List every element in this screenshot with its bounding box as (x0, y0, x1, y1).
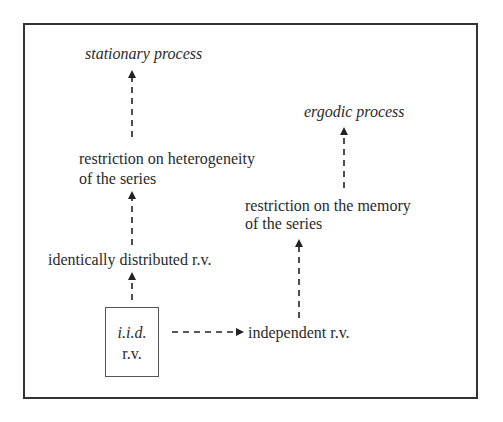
node-restriction-memory-line1: restriction on the memory (245, 197, 411, 215)
node-independent: independent r.v. (248, 324, 350, 342)
node-identically-distributed: identically distributed r.v. (48, 251, 211, 269)
node-ergodic-process: ergodic process (304, 103, 405, 121)
node-iid-rv-label: r.v. (106, 345, 158, 363)
node-iid-label: i.i.d. (106, 324, 158, 342)
node-restriction-memory-line2: of the series (245, 215, 322, 233)
node-restriction-heterogeneity-line1: restriction on heterogeneity (79, 150, 255, 168)
node-restriction-heterogeneity-line2: of the series (79, 170, 156, 188)
node-stationary-process: stationary process (85, 45, 202, 63)
node-iid-box: i.i.d. r.v. (105, 307, 159, 377)
